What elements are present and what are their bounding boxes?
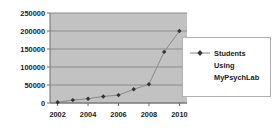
legend-label-line-2: Using (214, 61, 235, 70)
x-tick-label: 2008 (141, 110, 157, 119)
y-tick-label: 0 (41, 99, 45, 108)
y-axis-tick-labels: 050000100000150000200000250000 (20, 9, 45, 108)
chart-container: 050000100000150000200000250000 200220042… (0, 0, 280, 133)
y-tick-label: 50000 (24, 81, 45, 90)
x-tick-label: 2004 (80, 110, 97, 119)
y-tick-label: 200000 (20, 27, 45, 36)
chart-legend: Students Using MyPsychLab (183, 38, 271, 97)
line-chart: 050000100000150000200000250000 200220042… (0, 0, 280, 133)
y-tick-label: 100000 (20, 63, 45, 72)
legend-label-line-3: MyPsychLab (214, 73, 260, 82)
x-tick-label: 2002 (49, 110, 65, 119)
y-tick-label: 250000 (20, 9, 45, 18)
y-tick-label: 150000 (20, 45, 45, 54)
x-axis-tick-labels: 20022004200620082010 (49, 110, 187, 119)
x-tick-label: 2006 (110, 110, 126, 119)
x-tick-label: 2010 (171, 110, 187, 119)
legend-label-line-1: Students (214, 49, 246, 58)
plot-area-background (50, 13, 187, 103)
